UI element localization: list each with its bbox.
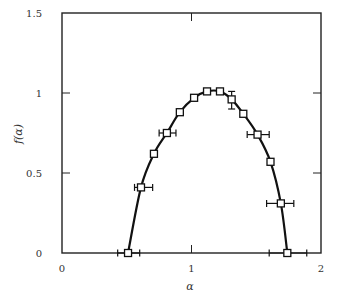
square-marker [176, 109, 183, 116]
x-tick-label: 1 [188, 263, 194, 274]
square-marker [216, 88, 223, 95]
y-tick-label: 1.5 [26, 8, 42, 19]
square-marker [150, 150, 157, 157]
y-tick-label: 0 [36, 248, 42, 259]
square-marker [254, 131, 261, 138]
y-tick-label: 0.5 [26, 168, 42, 179]
x-tick-label: 2 [318, 263, 324, 274]
x-axis-label: α [186, 280, 194, 293]
data-curve [128, 90, 287, 253]
f-alpha-chart: 01200.511.5 α f(α) [0, 0, 345, 302]
y-tick-label: 1 [36, 88, 42, 99]
square-marker [125, 250, 132, 257]
square-marker [277, 200, 284, 207]
square-marker [137, 184, 144, 191]
data-markers [125, 88, 291, 257]
square-marker [191, 94, 198, 101]
square-marker [284, 250, 291, 257]
square-marker [228, 96, 235, 103]
y-axis-label: f(α) [12, 124, 25, 145]
x-tick-label: 0 [59, 263, 65, 274]
square-marker [204, 88, 211, 95]
square-marker [163, 130, 170, 137]
square-marker [240, 110, 247, 117]
square-marker [267, 158, 274, 165]
tick-labels: 01200.511.5 [26, 8, 324, 274]
